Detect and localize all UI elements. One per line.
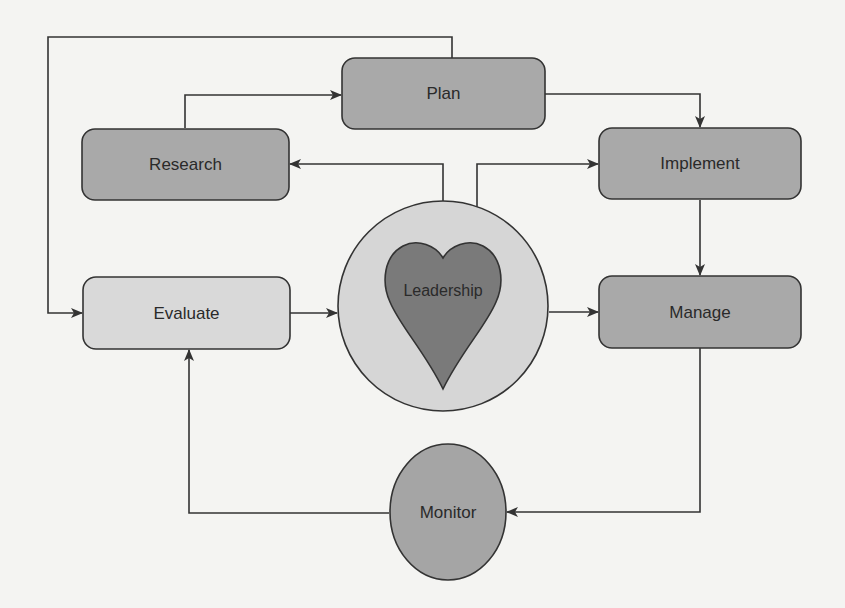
node-implement-label: Implement (660, 154, 740, 173)
node-manage-label: Manage (669, 303, 730, 322)
edge-leadership-to-implement (477, 164, 598, 210)
leadership-cycle-diagram: Plan Research Implement Evaluate Manage … (0, 0, 845, 608)
node-manage[interactable]: Manage (599, 276, 801, 348)
edge-monitor-to-evaluate (189, 350, 389, 513)
node-monitor-label: Monitor (420, 503, 477, 522)
edge-research-to-plan (185, 95, 341, 128)
node-plan-label: Plan (426, 84, 460, 103)
node-plan[interactable]: Plan (342, 58, 545, 129)
node-research-label: Research (149, 155, 222, 174)
node-implement[interactable]: Implement (599, 128, 801, 199)
node-evaluate-label: Evaluate (153, 304, 219, 323)
node-leadership[interactable]: Leadership (338, 201, 548, 411)
node-leadership-label: Leadership (403, 282, 482, 299)
edge-manage-to-monitor (507, 348, 700, 512)
node-research[interactable]: Research (82, 129, 289, 200)
node-monitor[interactable]: Monitor (390, 444, 506, 580)
edge-plan-to-implement (545, 94, 700, 127)
node-evaluate[interactable]: Evaluate (83, 277, 290, 349)
